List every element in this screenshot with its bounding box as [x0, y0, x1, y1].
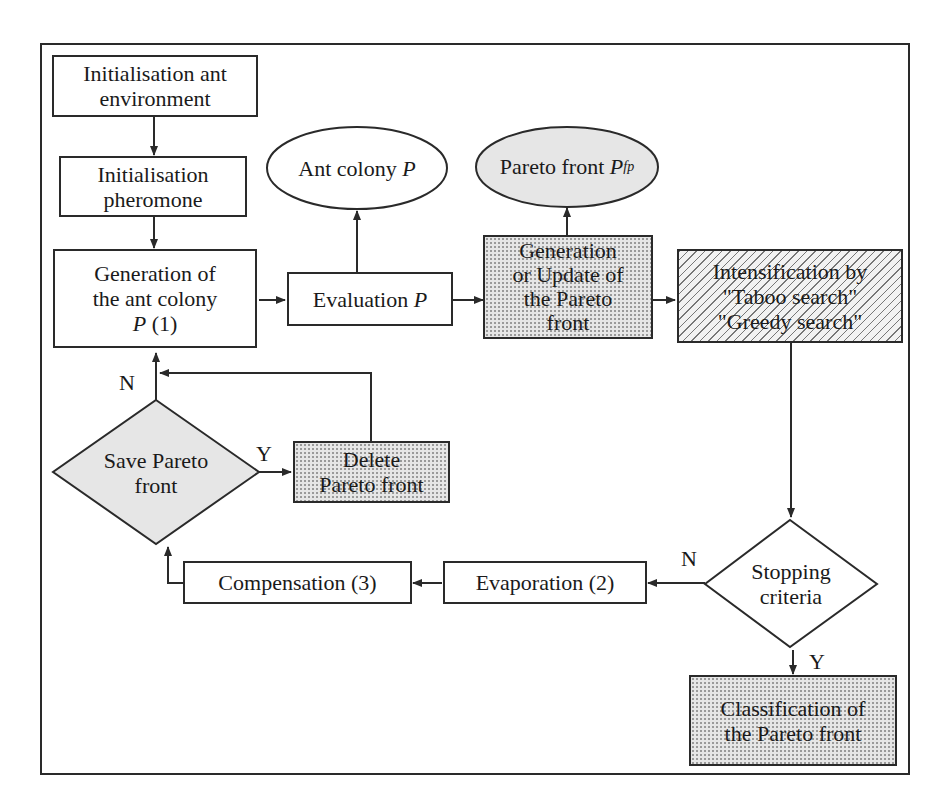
- intensification-line1: Intensification by: [713, 259, 868, 284]
- save-pareto-label: Save Pareto front: [76, 446, 236, 500]
- flowchart: Initialisation ant environment Initialis…: [0, 0, 947, 803]
- init-pheromone-box: Initialisation pheromone: [59, 156, 247, 217]
- intensification-box: Intensification by "Taboo search" "Greed…: [677, 249, 903, 343]
- pareto-front-text: Pareto front: [500, 154, 610, 179]
- init-ant-environment-box: Initialisation ant environment: [52, 55, 258, 117]
- evaluation-var: P: [414, 287, 427, 312]
- init-pher-line2: pheromone: [104, 187, 203, 212]
- generation-ant-colony-box: Generation of the ant colony P (1): [53, 249, 257, 348]
- update-line1: Generation: [519, 239, 617, 263]
- intensification-line2: "Taboo search": [723, 284, 857, 309]
- generation-index: (1): [146, 311, 177, 336]
- delete-line1: Delete: [343, 447, 400, 472]
- generation-line3: P (1): [133, 311, 178, 336]
- save-pareto-no-label: N: [119, 372, 135, 394]
- evaporation-label: Evaporation (2): [476, 570, 615, 595]
- stopping-no-label: N: [681, 548, 697, 570]
- update-line3: the Pareto: [524, 287, 613, 311]
- stopping-criteria-label: Stopping criteria: [730, 557, 852, 611]
- save-pareto-line2: front: [135, 473, 178, 498]
- pareto-front-subscript: fp: [623, 154, 634, 179]
- update-pareto-front-box: Generation or Update of the Pareto front: [483, 235, 653, 339]
- evaluation-label: Evaluation: [313, 287, 414, 312]
- outer-frame: [41, 44, 909, 774]
- ant-colony-text: Ant colony: [298, 156, 402, 181]
- save-pareto-yes-label: Y: [256, 443, 272, 465]
- init-pher-line1: Initialisation: [97, 162, 208, 187]
- compensation-box: Compensation (3): [183, 561, 412, 604]
- generation-line2: the ant colony: [93, 286, 218, 311]
- classification-box: Classification of the Pareto front: [689, 675, 897, 766]
- generation-var: P: [133, 311, 146, 336]
- intensification-line3: "Greedy search": [718, 309, 862, 334]
- delete-line2: Pareto front: [319, 472, 423, 497]
- evaporation-box: Evaporation (2): [443, 561, 647, 604]
- evaluation-box: Evaluation P: [287, 272, 453, 326]
- stopping-line1: Stopping: [751, 559, 830, 584]
- compensation-label: Compensation (3): [218, 570, 376, 595]
- update-line4: front: [547, 311, 590, 335]
- classification-line2: the Pareto front: [725, 721, 862, 746]
- init-env-line1: Initialisation ant: [83, 61, 227, 86]
- init-env-line2: environment: [99, 86, 210, 111]
- ant-colony-label: Ant colony P: [267, 148, 447, 188]
- stopping-yes-label: Y: [809, 651, 825, 673]
- pareto-front-var: P: [610, 154, 623, 179]
- generation-line1: Generation of: [94, 261, 216, 286]
- stopping-line2: criteria: [760, 584, 822, 609]
- save-pareto-line1: Save Pareto: [104, 448, 208, 473]
- ant-colony-var: P: [402, 156, 415, 181]
- classification-line1: Classification of: [721, 696, 866, 721]
- pareto-front-label: Pareto front Pfp: [476, 146, 658, 186]
- delete-pareto-front-box: Delete Pareto front: [293, 441, 450, 503]
- update-line2: or Update of: [512, 263, 623, 287]
